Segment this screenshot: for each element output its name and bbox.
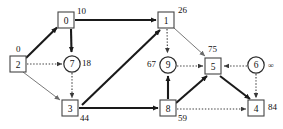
- node-9[interactable]: 9: [160, 57, 176, 73]
- node-0-label: 0: [64, 16, 69, 26]
- edge-1-to-9: [167, 29, 168, 53]
- edge-8-to-5: [176, 76, 207, 103]
- node-6[interactable]: 6: [248, 57, 264, 73]
- node-7[interactable]: 7: [64, 56, 80, 72]
- node-1[interactable]: 1: [158, 12, 174, 28]
- distance-label-node-7: 18: [82, 59, 91, 68]
- node-1-label: 1: [164, 16, 169, 26]
- distance-label-node-6: ∞: [268, 62, 274, 70]
- distance-label-node-2: 0: [16, 45, 21, 54]
- node-2-label: 2: [16, 60, 21, 70]
- edge-1-to-5: [174, 28, 205, 56]
- distance-label-node-3: 44: [80, 114, 89, 123]
- node-5[interactable]: 5: [205, 58, 221, 74]
- node-6-label: 6: [254, 60, 259, 70]
- node-4[interactable]: 4: [248, 100, 264, 116]
- node-4-label: 4: [254, 104, 259, 114]
- node-layer: 0 1 2 7 3 9 5 6: [10, 12, 264, 116]
- distance-label-node-4: 84: [268, 103, 277, 112]
- node-3-label: 3: [68, 104, 73, 114]
- edge-2-to-3: [23, 72, 60, 100]
- node-5-label: 5: [211, 62, 216, 72]
- node-8-label: 8: [166, 104, 171, 114]
- distance-label-node-9: 67: [147, 60, 156, 69]
- graph-canvas: 0 1 2 7 3 9 5 6: [0, 0, 283, 129]
- node-7-label: 7: [70, 59, 75, 69]
- distance-label-node-5: 75: [208, 45, 217, 54]
- node-0[interactable]: 0: [58, 12, 74, 28]
- node-8[interactable]: 8: [160, 100, 176, 116]
- node-2[interactable]: 2: [10, 56, 26, 72]
- distance-label-node-1: 26: [178, 6, 187, 15]
- edge-5-to-4: [220, 76, 250, 99]
- edge-0-to-7: [71, 29, 72, 52]
- distance-label-node-8: 59: [178, 114, 187, 123]
- distance-label-node-0: 10: [77, 7, 86, 16]
- node-9-label: 9: [166, 60, 171, 70]
- edge-2-to-0: [26, 28, 57, 59]
- node-3[interactable]: 3: [62, 100, 78, 116]
